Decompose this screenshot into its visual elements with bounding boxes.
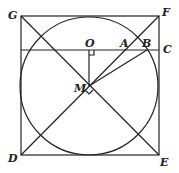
label-e: E (159, 156, 169, 169)
label-f: F (161, 6, 171, 19)
label-m: M (73, 82, 87, 95)
label-o: O (85, 37, 95, 50)
label-g: G (8, 9, 17, 22)
label-a: A (119, 37, 129, 50)
label-d: D (7, 152, 18, 165)
right-angle-mark-m (85, 90, 93, 94)
label-b: B (141, 37, 151, 50)
segment-mb (89, 50, 147, 86)
geometry-diagram: G F C D E O A B M (0, 0, 179, 173)
right-angle-mark-o (89, 50, 94, 55)
label-c: C (163, 43, 172, 56)
